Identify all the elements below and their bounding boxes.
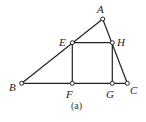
point-B: [20, 81, 24, 85]
label-B: B: [9, 81, 16, 93]
segment-AB: [22, 19, 103, 83]
point-E: [70, 41, 74, 45]
label-G: G: [106, 88, 114, 100]
point-C: [125, 81, 129, 85]
segment-AC: [103, 19, 128, 83]
point-A: [101, 17, 105, 21]
point-F: [70, 81, 74, 85]
point-G: [110, 81, 114, 85]
label-A: A: [96, 3, 104, 15]
point-H: [110, 41, 114, 45]
label-C: C: [130, 84, 138, 96]
label-F: F: [65, 88, 73, 100]
figure-caption: (a): [71, 100, 82, 112]
geometry-figure: A B C E F G H (a): [0, 0, 146, 122]
label-E: E: [58, 36, 66, 48]
label-H: H: [116, 36, 126, 48]
